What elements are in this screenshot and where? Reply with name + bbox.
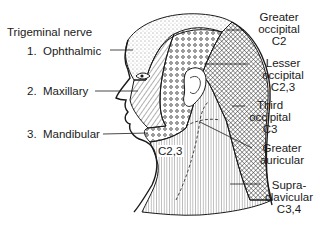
label-third-occipital: Third occipital C3 bbox=[238, 99, 302, 135]
label-maxillary: 2. Maxillary bbox=[27, 85, 88, 97]
leader-mandibular bbox=[103, 133, 148, 134]
third-occipital-line3: C3 bbox=[238, 123, 302, 135]
trigeminal-nerve-heading: Trigeminal nerve bbox=[7, 26, 92, 38]
greater-occipital-line2: occipital bbox=[244, 23, 314, 35]
greater-occipital-line3: C2 bbox=[244, 35, 314, 47]
greater-auricular-line2: auricular bbox=[250, 154, 314, 166]
supraclavicular-line2: clavicular bbox=[256, 191, 322, 203]
ophthalmic-number: 1. bbox=[27, 45, 37, 57]
third-occipital-line2: occipital bbox=[238, 111, 302, 123]
pupil bbox=[140, 74, 143, 77]
maxillary-number: 2. bbox=[27, 85, 37, 97]
label-c23-neck: C2,3 bbox=[157, 145, 183, 157]
label-ophthalmic: 1. Ophthalmic bbox=[27, 45, 101, 57]
label-lesser-occipital: Lesser occipital C2,3 bbox=[248, 57, 318, 93]
supraclavicular-line3: C3,4 bbox=[256, 203, 322, 215]
supraclavicular-line1: Supra- bbox=[256, 179, 322, 191]
label-supraclavicular: Supra- clavicular C3,4 bbox=[256, 179, 322, 215]
label-mandibular: 3. Mandibular bbox=[27, 128, 100, 140]
label-greater-auricular: Greater auricular bbox=[250, 142, 314, 166]
label-greater-occipital: Greater occipital C2 bbox=[244, 11, 314, 47]
lesser-occipital-line3: C2,3 bbox=[248, 81, 318, 93]
mandibular-name: Mandibular bbox=[43, 128, 100, 140]
mandibular-number: 3. bbox=[27, 128, 37, 140]
lesser-occipital-line2: occipital bbox=[248, 69, 318, 81]
lesser-occipital-line1: Lesser bbox=[248, 57, 318, 69]
greater-auricular-line1: Greater bbox=[250, 142, 314, 154]
third-occipital-line1: Third bbox=[238, 99, 302, 111]
ophthalmic-name: Ophthalmic bbox=[43, 45, 101, 57]
maxillary-name: Maxillary bbox=[43, 85, 88, 97]
greater-occipital-line1: Greater bbox=[244, 11, 314, 23]
